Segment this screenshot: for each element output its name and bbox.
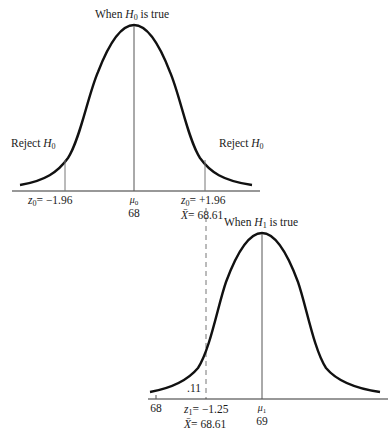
bottom-critical-label: z1= −1.25 X̄= 68.61 — [184, 404, 229, 431]
bottom-distribution — [148, 233, 388, 399]
bottom-mean-label: μ1 69 — [256, 403, 268, 428]
left-critical-label: z0= −1.96 — [28, 195, 73, 208]
top-title: When H0 is true — [95, 9, 169, 22]
right-critical-label: z0= +1.96 X̄= 68.61 — [181, 195, 226, 222]
reject-left-label: Reject H0 — [11, 138, 56, 151]
top-bell-curve — [20, 25, 252, 185]
beta-area-label: .11 — [187, 383, 201, 395]
bottom-title: When H1 is true — [224, 217, 298, 230]
top-mean-label: μ0 68 — [128, 195, 140, 220]
top-distribution — [12, 25, 260, 191]
bottom-left-tick-label: 68 — [150, 403, 162, 415]
bottom-bell-curve — [150, 233, 380, 392]
reject-right-label: Reject H0 — [219, 138, 264, 151]
